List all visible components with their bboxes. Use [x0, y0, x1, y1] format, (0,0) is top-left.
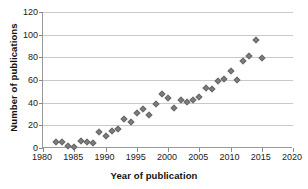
y-tick-label: 100 [23, 31, 38, 40]
y-tick-label: 60 [28, 76, 38, 85]
y-axis-title: Number of publications [8, 8, 19, 148]
data-point [71, 143, 78, 150]
data-point [139, 106, 146, 113]
y-tick-label: 20 [28, 121, 38, 130]
data-point [102, 132, 109, 139]
data-point [133, 109, 140, 116]
data-point [164, 95, 171, 102]
y-axis-tick-labels: 020406080100120 [0, 12, 38, 148]
x-tick-label: 2000 [150, 153, 184, 162]
data-point [221, 75, 228, 82]
data-point [233, 76, 240, 83]
data-point [246, 53, 253, 60]
x-tick-label: 1980 [25, 153, 59, 162]
gridline [43, 103, 293, 104]
y-tick-mark [39, 125, 43, 126]
y-tick-mark [39, 12, 43, 13]
gridline [43, 57, 293, 58]
data-point [252, 37, 259, 44]
x-tick-label: 2015 [244, 153, 278, 162]
x-tick-label: 2020 [275, 153, 308, 162]
data-point [152, 100, 159, 107]
data-point [171, 105, 178, 112]
data-point [158, 90, 165, 97]
gridline [43, 80, 293, 81]
y-tick-mark [39, 35, 43, 36]
data-point [258, 55, 265, 62]
x-tick-label: 2010 [213, 153, 247, 162]
x-tick-label: 1995 [119, 153, 153, 162]
y-tick-mark [39, 103, 43, 104]
gridline [43, 12, 293, 13]
data-point [146, 112, 153, 119]
publications-scatter-chart: 020406080100120 Year of publication Numb… [0, 0, 308, 189]
gridline [43, 125, 293, 126]
data-point [89, 140, 96, 147]
y-tick-label: 40 [28, 99, 38, 108]
x-tick-label: 1990 [88, 153, 122, 162]
x-tick-label: 2005 [181, 153, 215, 162]
y-tick-label: 80 [28, 53, 38, 62]
y-tick-mark [39, 80, 43, 81]
data-point [96, 129, 103, 136]
data-point [208, 86, 215, 93]
x-tick-label: 1985 [56, 153, 90, 162]
y-tick-label: 120 [23, 8, 38, 17]
plot-area [42, 12, 292, 148]
y-tick-mark [39, 57, 43, 58]
data-point [227, 67, 234, 74]
x-axis-title: Year of publication [0, 170, 308, 181]
